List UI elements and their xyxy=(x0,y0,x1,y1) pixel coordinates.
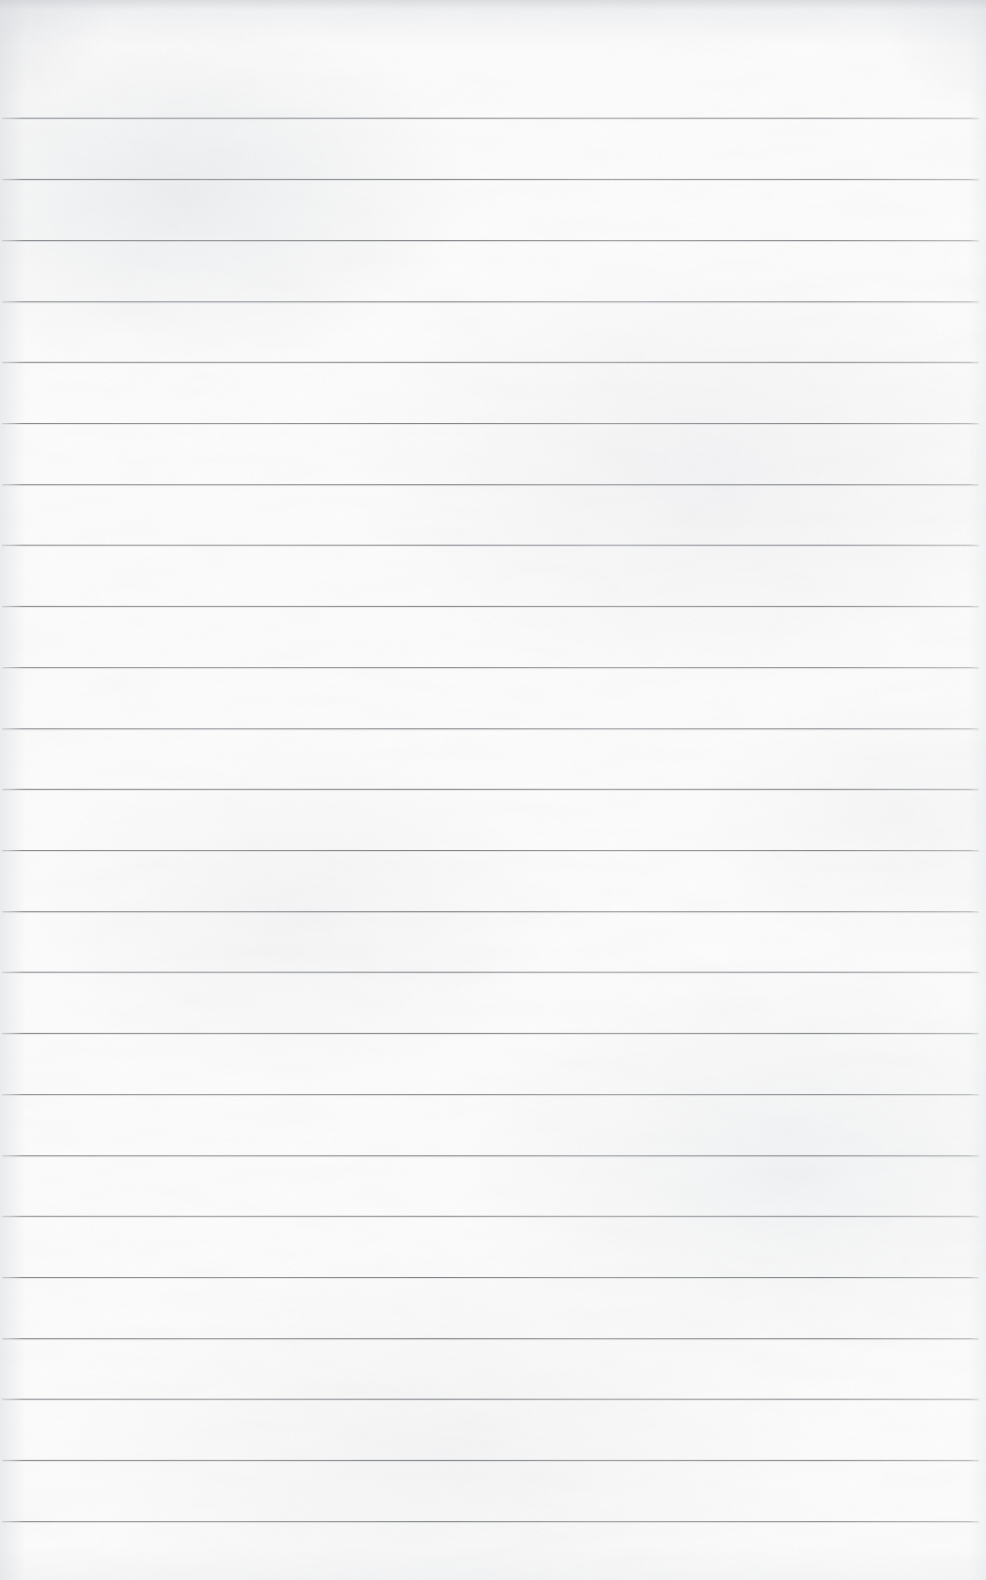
rule-line xyxy=(2,1155,979,1156)
rule-line xyxy=(2,606,979,607)
rule-line xyxy=(2,1094,979,1095)
rule-line xyxy=(2,301,979,302)
rule-line xyxy=(2,1399,979,1400)
rule-line xyxy=(2,240,979,241)
rule-line xyxy=(2,362,979,363)
rule-line xyxy=(2,179,979,180)
rule-line xyxy=(2,728,979,729)
rule-line xyxy=(2,1033,979,1034)
rule-line xyxy=(2,1277,979,1278)
ruled-lines-group xyxy=(0,0,986,1580)
rule-line xyxy=(2,911,979,912)
rule-line xyxy=(2,1521,979,1522)
rule-line xyxy=(2,789,979,790)
rule-line xyxy=(2,423,979,424)
lined-paper-sheet xyxy=(0,0,986,1580)
rule-line xyxy=(2,484,979,485)
rule-line xyxy=(2,1216,979,1217)
rule-line xyxy=(2,1338,979,1339)
rule-line xyxy=(2,667,979,668)
rule-line xyxy=(2,1460,979,1461)
rule-line xyxy=(2,972,979,973)
rule-line xyxy=(2,118,979,119)
rule-line xyxy=(2,545,979,546)
rule-line xyxy=(2,850,979,851)
